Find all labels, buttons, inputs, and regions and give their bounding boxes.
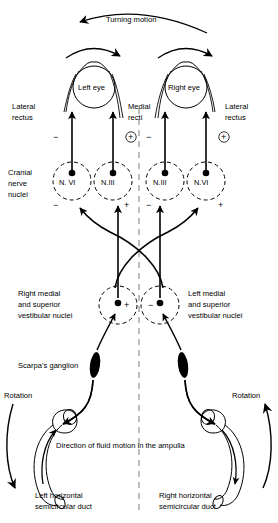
left-vestibular-label-3: vestibular nuclei xyxy=(188,311,243,320)
lateral-rectus-right-label-1: Lateral xyxy=(225,102,249,111)
fluid-arrow-left-duct xyxy=(63,380,93,424)
cranial-nuclei-label-3: nuclei xyxy=(8,190,28,199)
left-eye-label: Left eye xyxy=(78,83,105,92)
right-vestibular-label-1: Right medial xyxy=(18,289,61,298)
scarpas-ganglion-left xyxy=(176,351,190,378)
right-vestibular-label-3: vestibular nuclei xyxy=(18,311,73,320)
sign-left-medial-rectus: + xyxy=(128,132,133,142)
scarpas-ganglion-right xyxy=(88,351,102,378)
nucleus-n6-left-sign-left: − xyxy=(53,200,58,210)
lateral-rectus-left-label-1: Lateral xyxy=(12,102,36,111)
vestibular-right-sign: + xyxy=(124,300,129,310)
nucleus-n3-right-label: N.III xyxy=(153,178,167,187)
primary-afferents: Scarpa's ganglion xyxy=(18,314,215,424)
vestibular-left-sign: − xyxy=(148,300,153,310)
figure-canvas: Turning motion Left eye Right eye xyxy=(0,0,278,523)
left-eye-motion-arc xyxy=(66,48,120,58)
right-duct-inner-wall xyxy=(214,425,232,499)
lateral-rectus-right-label-2: rectus xyxy=(225,113,246,122)
nucleus-n6-right-label: N.VI xyxy=(194,178,208,187)
turning-motion-group: Turning motion xyxy=(80,14,207,33)
vestibulo-ocular-reflex-diagram: Turning motion Left eye Right eye xyxy=(0,0,278,523)
crossed-fiber-to-n6-right xyxy=(115,208,198,288)
nucleus-n3-left-sign-right: + xyxy=(124,200,129,210)
muscle-sign-group: − + − + xyxy=(53,132,229,142)
left-eye-group: Left eye xyxy=(64,48,123,118)
left-duct-label-2: semicircular duct xyxy=(35,502,93,511)
rotation-right-label: Rotation xyxy=(232,391,260,400)
scarpas-ganglion-label: Scarpa's ganglion xyxy=(18,361,78,370)
cranial-nuclei-label-1: Cranial xyxy=(8,168,32,177)
left-rotation-arrow xyxy=(7,404,15,488)
right-eye-motion-arc xyxy=(158,48,212,58)
left-vestibular-label-1: Left medial xyxy=(188,289,225,298)
left-duct-label-1: Left horizontal xyxy=(35,491,83,500)
right-eye-group: Right eye xyxy=(155,48,215,118)
nucleus-n6-right-sign-right: + xyxy=(218,200,223,210)
lateral-rectus-left-label-2: rectus xyxy=(12,113,33,122)
left-duct-inner-wall xyxy=(46,425,64,499)
nucleus-n3-right-sign-left: − xyxy=(146,200,151,210)
right-duct-fluid-arrow xyxy=(222,430,236,484)
fluid-motion-arrows: Direction of fluid motion in the ampulla xyxy=(56,380,215,450)
turning-motion-label: Turning motion xyxy=(106,15,156,24)
right-rotation-arrow xyxy=(263,404,271,488)
right-duct-label-1: Right horizontal xyxy=(159,491,212,500)
sign-right-medial-rectus: − xyxy=(146,132,151,142)
fluid-direction-label: Direction of fluid motion in the ampulla xyxy=(56,441,186,450)
muscle-labels: Lateral rectus Medial recti Lateral rect… xyxy=(12,102,249,122)
sign-left-medial-rectus-circled: + xyxy=(126,132,136,142)
sign-left-lateral-rectus: − xyxy=(53,132,58,142)
rotation-left-label: Rotation xyxy=(4,391,32,400)
cranial-nerve-nuclei-group: Cranial nerve nuclei N. VI − N.III + xyxy=(8,162,225,210)
right-duct-label-2: semicircular duct xyxy=(159,502,217,511)
sign-right-lateral-rectus: + xyxy=(221,132,226,142)
medial-recti-label-2: recti xyxy=(128,113,143,122)
left-duct-fluid-arrow xyxy=(42,430,56,484)
left-semicircular-duct-group: Rotation Left horizontal semicircular du… xyxy=(4,391,93,511)
nucleus-n3-left-label: N.III xyxy=(101,178,115,187)
crossed-fiber-to-n6-left xyxy=(80,208,163,288)
right-eye-label: Right eye xyxy=(168,83,200,92)
vestibular-nuclei-group: Right medial and superior vestibular nuc… xyxy=(18,286,243,324)
sign-right-lateral-rectus-circled: + xyxy=(219,132,229,142)
right-vestibular-label-2: and superior xyxy=(18,300,61,309)
fluid-arrow-right-duct xyxy=(185,380,215,424)
right-semicircular-duct-group: Rotation Right horizontal semicircular d… xyxy=(159,391,271,511)
cranial-nuclei-label-2: nerve xyxy=(8,179,27,188)
medial-recti-label-1: Medial xyxy=(128,102,151,111)
nucleus-n6-left-label: N. VI xyxy=(59,178,75,187)
left-vestibular-label-2: and superior xyxy=(188,300,231,309)
